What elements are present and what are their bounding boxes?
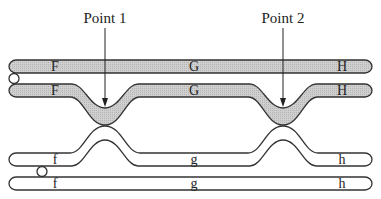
point-2-label: Point 2 [262, 10, 305, 26]
crossover-diagram: Point 1 Point 2 F G H F G H f g h f g h [0, 0, 381, 199]
gene-label: g [191, 152, 198, 167]
centromere-lower [37, 167, 47, 177]
gene-label: h [339, 176, 346, 191]
gene-label: h [339, 152, 346, 167]
gene-label: H [337, 83, 347, 98]
gene-label: F [51, 59, 59, 74]
gene-label: H [337, 59, 347, 74]
gene-label: G [189, 83, 199, 98]
gene-label: G [189, 59, 199, 74]
gene-label: f [53, 176, 58, 191]
gene-label: g [191, 176, 198, 191]
centromere-upper [9, 74, 19, 84]
gene-label: f [53, 152, 58, 167]
point-1-label: Point 1 [84, 10, 127, 26]
gene-label: F [51, 83, 59, 98]
